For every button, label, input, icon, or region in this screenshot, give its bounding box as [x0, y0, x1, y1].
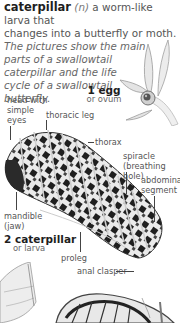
headword: caterpillar — [4, 0, 71, 14]
leader-head — [10, 126, 11, 140]
stage-1-label: 1 egg or ovum — [84, 84, 124, 104]
stage-1-subtitle: or ovum — [84, 94, 124, 104]
label-proleg: proleg — [61, 253, 87, 263]
label-thorax: thorax — [95, 137, 122, 147]
stage-2-label: 2 caterpillar or larva — [4, 233, 76, 253]
leader-spiracle — [126, 172, 127, 194]
label-thoracic-leg: thoracic leg — [46, 110, 94, 120]
leader-thoracic-leg — [46, 120, 47, 130]
butterfly-wing-illustration — [52, 288, 180, 323]
leader-proleg — [80, 232, 81, 252]
leader-mandible — [16, 192, 17, 210]
label-mandible: mandible (jaw) — [4, 211, 42, 231]
leader-thorax — [88, 142, 94, 143]
leader-abdominal-segment — [154, 196, 155, 222]
definition-line-1: caterpillar (n) a worm-like larva that — [4, 1, 180, 27]
leader-anal-clasper — [116, 271, 134, 272]
label-abdominal-segment: abdominal segment — [141, 175, 180, 195]
egg-on-leaf-illustration — [118, 36, 180, 126]
chrysalis-illustration — [0, 262, 40, 323]
label-head: head with simple eyes — [7, 95, 47, 125]
part-of-speech: (n) — [74, 1, 89, 13]
